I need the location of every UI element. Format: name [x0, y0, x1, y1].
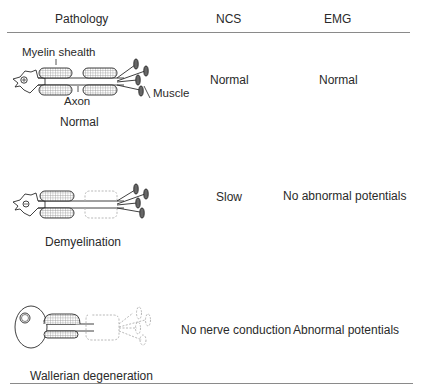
axon-label: Axon — [64, 95, 90, 107]
footer-divider — [10, 383, 413, 384]
pathology-demyelination: Demyelination — [45, 235, 121, 249]
normal-neuron-icon — [13, 59, 150, 98]
degenerated-neuron-icon — [15, 306, 151, 348]
demyelinated-neuron-icon — [13, 184, 148, 218]
pathology-normal: Normal — [60, 115, 99, 129]
emg-abnormal: Abnormal potentials — [293, 323, 399, 337]
emg-no-abnormal: No abnormal potentials — [283, 189, 406, 203]
pathology-wallerian: Wallerian degeneration — [30, 369, 153, 383]
ncs-slow: Slow — [216, 190, 242, 204]
ncs-no-conduction: No nerve conduction — [181, 323, 291, 337]
emg-normal: Normal — [319, 73, 358, 87]
muscle-label: Muscle — [153, 87, 189, 99]
ncs-normal: Normal — [210, 73, 249, 87]
myelin-sheath-label: Myelin shealth — [22, 46, 96, 58]
